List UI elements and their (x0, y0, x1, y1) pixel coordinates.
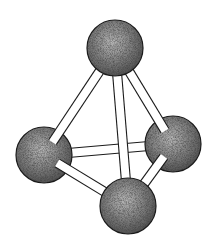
back-bonds-layer (59, 141, 158, 158)
bond-top-bottom (112, 63, 131, 191)
top-atom (87, 20, 143, 76)
bond-left-right (59, 141, 158, 158)
left-atom (16, 127, 72, 183)
molecule-svg (0, 0, 215, 247)
bottom-front-atom (100, 178, 156, 234)
tetrahedral-molecule-diagram: Tetrahedral ball-and-stick molecular mod… (0, 0, 215, 247)
